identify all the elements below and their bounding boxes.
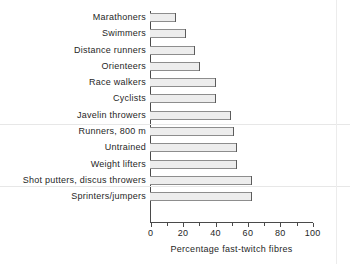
bar <box>150 46 195 55</box>
x-axis-tick-minor <box>264 223 265 226</box>
bar-category-label: Untrained <box>105 142 146 152</box>
bar <box>150 78 216 87</box>
x-axis-tick-minor <box>167 223 168 226</box>
bar-category-label: Swimmers <box>102 28 146 38</box>
bar-category-label: Marathoners <box>93 12 146 22</box>
bar-row: Weight lifters <box>0 158 350 174</box>
bar-category-label: Distance runners <box>74 45 146 55</box>
bar-row: Javelin throwers <box>0 109 350 125</box>
bar <box>150 143 237 152</box>
bar-row: Sprinters/jumpers <box>0 190 350 206</box>
bar-row: Runners, 800 m <box>0 125 350 141</box>
bar-row: Race walkers <box>0 76 350 92</box>
bar-category-label: Runners, 800 m <box>78 126 146 136</box>
bar-row: Marathoners <box>0 11 350 27</box>
x-axis-tick <box>216 223 217 227</box>
bar <box>150 176 252 185</box>
x-axis-ticklabel: 100 <box>305 228 321 238</box>
x-axis-title: Percentage fast-twitch fibres <box>150 244 313 254</box>
bar-row: Shot putters, discus throwers <box>0 174 350 190</box>
x-axis-ticklabel: 20 <box>178 228 189 238</box>
bar-row: Distance runners <box>0 44 350 60</box>
x-axis-ticklabel: 0 <box>148 228 153 238</box>
bar-chart: MarathonersSwimmersDistance runnersOrien… <box>0 0 350 264</box>
bar-row: Swimmers <box>0 27 350 43</box>
x-axis-tick <box>313 223 314 227</box>
bar-category-label: Race walkers <box>89 77 146 87</box>
bar <box>150 94 216 103</box>
bar <box>150 62 200 71</box>
scan-artifact-line <box>336 0 337 264</box>
bar-category-label: Orienteers <box>101 61 146 71</box>
bar <box>150 111 231 120</box>
x-axis-tick <box>248 223 249 227</box>
scan-artifact-line <box>0 124 350 125</box>
bar <box>150 192 252 201</box>
x-axis-ticklabel: 60 <box>243 228 254 238</box>
scan-artifact-line <box>0 186 350 187</box>
bar <box>150 127 234 136</box>
bar-row: Cyclists <box>0 92 350 108</box>
bar-category-label: Shot putters, discus throwers <box>23 175 146 185</box>
plot-area: MarathonersSwimmersDistance runnersOrien… <box>0 0 350 264</box>
x-axis-tick-minor <box>297 223 298 226</box>
bar-category-label: Javelin throwers <box>77 110 146 120</box>
bar <box>150 13 176 22</box>
x-axis-tick <box>151 223 152 227</box>
x-axis-tick-minor <box>232 223 233 226</box>
x-axis-ticklabel: 40 <box>210 228 221 238</box>
bar-rows: MarathonersSwimmersDistance runnersOrien… <box>0 11 350 207</box>
x-axis-tick <box>280 223 281 227</box>
bar-row: Orienteers <box>0 60 350 76</box>
bar-category-label: Weight lifters <box>91 159 146 169</box>
bar-category-label: Cyclists <box>113 93 146 103</box>
bar-category-label: Sprinters/jumpers <box>71 191 146 201</box>
bar <box>150 29 186 38</box>
bar <box>150 160 237 169</box>
x-axis-tick-minor <box>199 223 200 226</box>
x-axis-tick <box>183 223 184 227</box>
bar-row: Untrained <box>0 141 350 157</box>
x-axis-ticklabel: 80 <box>275 228 286 238</box>
